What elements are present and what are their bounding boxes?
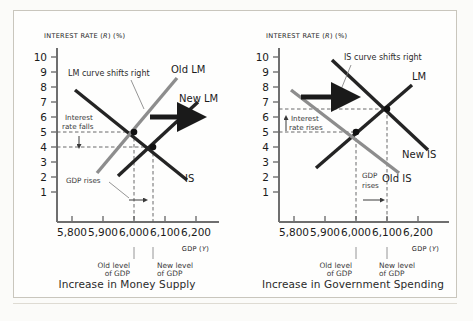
x-axis-title: GDP (Y) — [182, 245, 209, 253]
x-axis-title: GDP (Y) — [412, 245, 439, 253]
y-tick-10: 10 — [256, 51, 269, 63]
y-tick-2: 2 — [40, 171, 47, 183]
shift-note: LM curve shifts right — [68, 69, 150, 78]
y-tick-5: 5 — [40, 126, 47, 138]
x-tick-6000: 6,000 — [119, 226, 149, 238]
panel-caption-money-supply: Increase in Money Supply — [13, 278, 241, 290]
y-tick-6: 6 — [262, 111, 269, 123]
y-tick-2: 2 — [262, 171, 269, 183]
curve-label-is: IS — [185, 173, 194, 184]
y-tick-9: 9 — [262, 66, 269, 78]
gdp-note-line2: rises — [362, 181, 379, 190]
y-tick-7: 7 — [40, 96, 47, 108]
y-tick-8: 8 — [262, 81, 269, 93]
y-tick-4: 4 — [262, 141, 269, 153]
rate-note-line1: Interest — [65, 113, 93, 122]
x-tick-6200: 6,200 — [181, 226, 211, 238]
y-tick-5: 5 — [262, 126, 269, 138]
figure-bottom-rule — [13, 303, 457, 320]
y-axis-title: INTEREST RATE (R) (%) — [266, 32, 347, 40]
rate-note-line1: Interest — [291, 114, 319, 123]
x-tick-6100: 6,100 — [150, 226, 180, 238]
panel-government-spending: INTEREST RATE (R) (%) 10 9 8 7 6 5 4 — [239, 10, 467, 298]
figure-container: INTEREST RATE (R) (%) 10 9 8 7 6 — [0, 0, 473, 321]
new-level-line2: of GDP — [157, 269, 183, 278]
x-tick-5900: 5,900 — [88, 226, 118, 238]
old-level-line2: of GDP — [327, 269, 353, 278]
curve-new-lm — [118, 102, 198, 176]
old-level-line2: of GDP — [105, 269, 131, 278]
equilibrium-dot-new — [150, 144, 157, 151]
curve-label-lm: LM — [412, 71, 426, 82]
y-tick-7: 7 — [262, 96, 269, 108]
x-tick-5900: 5,900 — [310, 226, 340, 238]
curve-label-old-lm: Old LM — [171, 64, 205, 75]
new-level-line2: of GDP — [379, 269, 405, 278]
equilibrium-dot-old — [131, 129, 138, 136]
y-tick-9: 9 — [40, 66, 47, 78]
y-tick-1: 1 — [40, 186, 47, 198]
y-tick-3: 3 — [262, 156, 269, 168]
gdp-note-line1: GDP — [362, 171, 378, 180]
y-tick-10: 10 — [34, 51, 47, 63]
y-axis-title: INTEREST RATE (R) (%) — [44, 32, 125, 40]
gdp-note-leader — [109, 182, 129, 198]
x-tick-6000: 6,000 — [341, 226, 371, 238]
x-tick-6100: 6,100 — [372, 226, 402, 238]
rate-note-line2: rate rises — [289, 123, 323, 132]
panel-caption-government-spending: Increase in Government Spending — [239, 278, 467, 290]
rate-note-line2: rate falls — [62, 122, 94, 131]
equilibrium-dot-old — [353, 129, 360, 136]
curve-label-new-is: New IS — [402, 149, 436, 160]
y-tick-8: 8 — [40, 81, 47, 93]
y-tick-4: 4 — [40, 141, 47, 153]
x-tick-5800: 5,800 — [57, 226, 87, 238]
y-tick-1: 1 — [262, 186, 269, 198]
curve-label-old-is: Old IS — [382, 173, 411, 184]
panel-money-supply: INTEREST RATE (R) (%) 10 9 8 7 6 — [13, 10, 241, 298]
shift-note-leader — [131, 80, 144, 109]
y-tick-3: 3 — [40, 156, 47, 168]
x-tick-5800: 5,800 — [279, 226, 309, 238]
equilibrium-dot-new — [384, 106, 391, 113]
y-tick-6: 6 — [40, 111, 47, 123]
curve-label-new-lm: New LM — [179, 93, 218, 104]
chart-government-spending: INTEREST RATE (R) (%) 10 9 8 7 6 5 4 — [239, 10, 467, 270]
chart-money-supply: INTEREST RATE (R) (%) 10 9 8 7 6 — [13, 10, 241, 270]
gdp-note: GDP rises — [66, 176, 101, 185]
x-tick-6200: 6,200 — [403, 226, 433, 238]
shift-note: IS curve shifts right — [344, 53, 422, 62]
